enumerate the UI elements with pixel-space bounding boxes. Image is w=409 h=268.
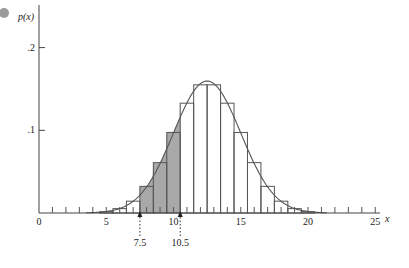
histogram-bar — [207, 85, 220, 213]
bullet-marker — [0, 8, 9, 18]
histogram-bar — [247, 163, 260, 213]
x-tick-label: 0 — [37, 216, 42, 227]
x-tick-label: 15 — [236, 216, 246, 227]
histogram-bar — [221, 103, 234, 213]
normal-curve — [86, 81, 327, 213]
shaded-region — [140, 103, 180, 213]
x-ticks: 0510152025 — [37, 207, 381, 227]
annotation-7-5: 7.5 — [134, 237, 147, 248]
x-tick-label: 20 — [303, 216, 313, 227]
shaded-area — [140, 103, 180, 213]
annotations: 7.5 10.5 — [134, 211, 189, 248]
histogram-bar — [180, 103, 193, 213]
x-tick-label: 5 — [104, 216, 109, 227]
y-axis-title: p(x) — [17, 11, 35, 23]
y-tick-label: .1 — [28, 124, 36, 135]
histogram-bar — [194, 85, 207, 213]
x-axis-title: x — [384, 213, 390, 224]
annotation-10-5: 10.5 — [171, 237, 189, 248]
y-tick-label: .2 — [28, 42, 36, 53]
binomial-histogram-chart: 0510152025 .1.2 p(x) x 7.5 10.5 — [0, 0, 409, 268]
x-tick-label: 10 — [169, 216, 179, 227]
y-ticks: .1.2 — [28, 42, 46, 136]
x-tick-label: 25 — [370, 216, 380, 227]
histogram-bars — [100, 85, 315, 213]
